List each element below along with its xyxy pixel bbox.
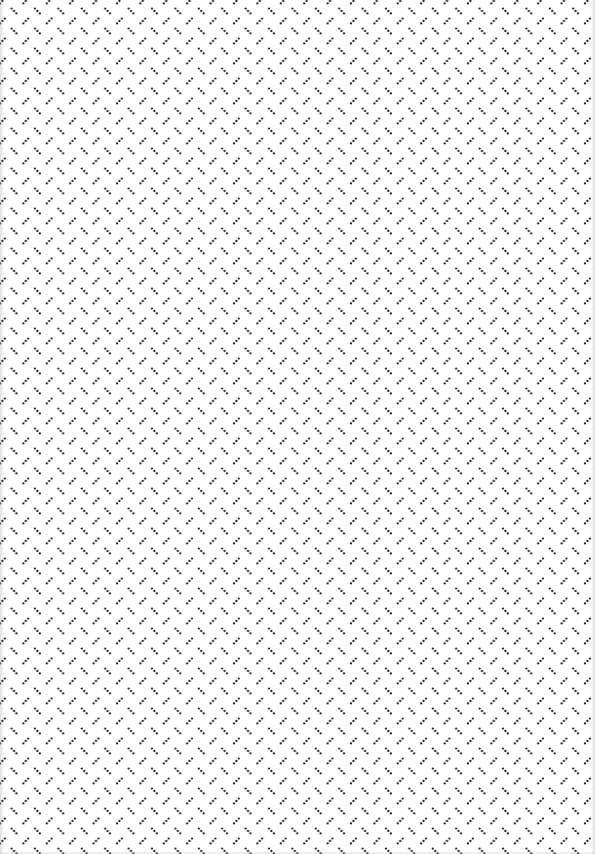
diamond-plate-pattern: [0, 0, 595, 854]
dotted-pattern-canvas: [0, 0, 595, 854]
